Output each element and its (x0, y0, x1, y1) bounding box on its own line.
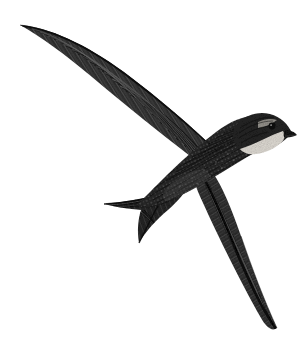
illustration-canvas: Common Swift (0, 0, 308, 352)
swift-bird-illustration: Common Swift (0, 0, 308, 352)
eye (269, 123, 276, 130)
eye-highlight (270, 124, 272, 126)
